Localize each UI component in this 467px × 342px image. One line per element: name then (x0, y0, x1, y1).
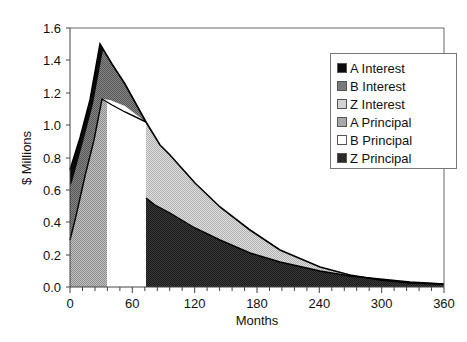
y-tick-label: 1.4 (43, 53, 61, 68)
legend-item-b-principal: B Principal (337, 131, 456, 149)
stacked-area-chart: 1.6 1.4 1.2 1.0 0.8 0.6 0.4 0.2 0.0 (0, 0, 467, 342)
y-tick-label: 0.6 (43, 183, 61, 198)
x-axis-title: Months (236, 313, 279, 328)
x-tick-label: 0 (66, 296, 73, 311)
y-tick-label: 1.2 (43, 86, 61, 101)
x-axis (70, 287, 444, 293)
area-b-principal (107, 101, 146, 287)
legend-label: Z Principal (350, 151, 411, 166)
legend-item-a-interest: A Interest (337, 59, 456, 77)
chart-legend: A Interest B Interest Z Interest A Princ… (330, 53, 457, 169)
legend-swatch (337, 135, 347, 145)
legend-item-a-principal: A Principal (337, 113, 456, 131)
x-tick-label: 300 (371, 296, 393, 311)
legend-label: B Principal (350, 133, 412, 148)
y-tick-label: 0.4 (43, 215, 61, 230)
x-tick-label: 180 (246, 296, 268, 311)
x-tick-label: 240 (308, 296, 330, 311)
legend-item-z-interest: Z Interest (337, 95, 456, 113)
x-tick-label: 60 (125, 296, 139, 311)
legend-swatch (337, 81, 347, 91)
y-tick-label: 0.8 (43, 151, 61, 166)
y-tick-label: 1.0 (43, 118, 61, 133)
x-tick-label: 360 (433, 296, 455, 311)
legend-label: A Principal (350, 115, 411, 130)
legend-label: A Interest (350, 61, 405, 76)
legend-label: B Interest (350, 79, 406, 94)
legend-label: Z Interest (350, 97, 405, 112)
y-axis-title: $ Millions (19, 130, 34, 185)
y-tick-label: 1.6 (43, 21, 61, 36)
legend-swatch (337, 63, 347, 73)
y-tick-label: 0.0 (43, 280, 61, 295)
legend-swatch (337, 153, 347, 163)
legend-item-b-interest: B Interest (337, 77, 456, 95)
legend-swatch (337, 99, 347, 109)
legend-item-z-principal: Z Principal (337, 149, 456, 167)
x-tick-labels: 0 60 120 180 240 300 360 (66, 296, 454, 311)
y-axis: 1.6 1.4 1.2 1.0 0.8 0.6 0.4 0.2 0.0 (43, 21, 70, 295)
legend-swatch (337, 117, 347, 127)
x-tick-label: 120 (184, 296, 206, 311)
y-tick-label: 0.2 (43, 248, 61, 263)
